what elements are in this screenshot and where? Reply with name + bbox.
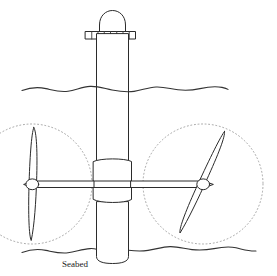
left-turbine-assembly bbox=[24, 128, 94, 241]
support-tower-group bbox=[97, 34, 129, 264]
right-rotor-hub bbox=[197, 179, 210, 190]
seabed-label: Seabed bbox=[62, 259, 88, 269]
figure-container: Seabed bbox=[0, 0, 277, 276]
seabed-line-right bbox=[129, 247, 257, 252]
tower-collar-lower bbox=[94, 188, 132, 203]
left-nacelle-shaft bbox=[32, 181, 94, 188]
tower-upper-column bbox=[97, 34, 129, 161]
right-turbine-assembly bbox=[131, 132, 225, 234]
right-nacelle-shaft bbox=[131, 181, 203, 188]
tidal-turbine-diagram: Seabed bbox=[0, 0, 277, 276]
tower-collar-group bbox=[94, 159, 132, 203]
tower-lower-column bbox=[97, 202, 129, 264]
left-rotor-hub bbox=[26, 179, 39, 190]
tower-collar-upper bbox=[94, 159, 132, 181]
seabed-line-left bbox=[22, 249, 97, 254]
